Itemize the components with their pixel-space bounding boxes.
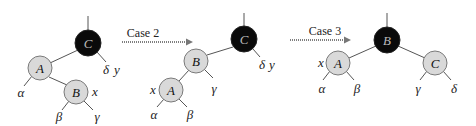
node-a-label: A (333, 56, 342, 71)
subtree-gamma: γ (94, 109, 100, 124)
edge-c-delta (97, 52, 106, 62)
subtree-alpha: α (18, 85, 26, 100)
edge-c-gamma (420, 71, 427, 80)
annotation-y: y (112, 62, 120, 77)
edge-b-a (349, 46, 376, 58)
node-b-label: B (383, 33, 391, 48)
tree-after-case-2: C B A α β γ δ y x (149, 13, 275, 122)
case-2-arrow-head-icon (186, 39, 193, 46)
subtree-delta: δ (451, 81, 458, 96)
subtree-alpha: α (151, 107, 159, 122)
case-3-label: Case 3 (309, 24, 341, 38)
subtree-delta: δ (259, 57, 266, 72)
subtree-alpha: α (319, 81, 327, 96)
edge-b-c (398, 46, 425, 58)
node-a-label: A (35, 61, 44, 76)
edge-a-b (49, 77, 67, 85)
edge-b-a (179, 70, 189, 81)
subtree-beta: β (186, 107, 194, 122)
annotation-x: x (317, 55, 324, 70)
node-c-label: C (84, 36, 93, 51)
edge-a-alpha (323, 71, 330, 80)
edge-c-b (207, 47, 233, 55)
edge-a-beta (346, 71, 354, 80)
annotation-x: x (149, 82, 156, 97)
case-3-arrow-head-icon (344, 37, 351, 44)
node-b-label: B (72, 85, 80, 100)
node-a-label: A (166, 83, 175, 98)
annotation-x: x (91, 84, 98, 99)
subtree-gamma: γ (415, 81, 421, 96)
subtree-beta: β (55, 109, 63, 124)
tree-before-case-2: C A B α β γ δ y x (18, 16, 121, 124)
edge-a-alpha (157, 99, 164, 107)
edge-c-delta (443, 71, 451, 80)
edge-b-gamma (204, 69, 213, 78)
case-2-label: Case 2 (127, 26, 159, 40)
node-c-label: C (240, 32, 249, 47)
edge-a-alpha (24, 76, 32, 86)
rb-tree-diagram: C A B α β γ δ y x Case 2 C B A α β γ δ (0, 0, 476, 126)
subtree-beta: β (353, 81, 361, 96)
transition-case-2: Case 2 (122, 26, 193, 46)
annotation-y: y (267, 57, 275, 72)
subtree-delta: δ (103, 62, 110, 77)
node-b-label: B (192, 54, 200, 69)
node-c-label: C (431, 56, 440, 71)
subtree-gamma: γ (211, 81, 217, 96)
edge-b-beta (62, 101, 69, 110)
edge-c-a (50, 50, 78, 63)
transition-case-3: Case 3 (290, 24, 351, 44)
edge-b-gamma (84, 101, 93, 110)
